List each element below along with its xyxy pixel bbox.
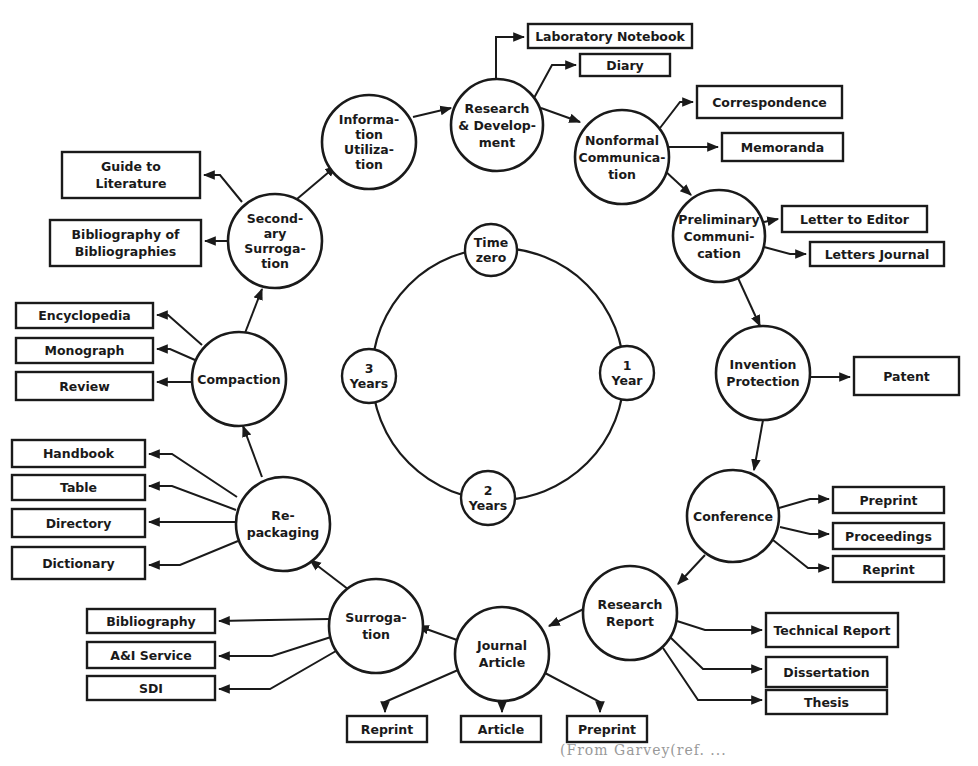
time-marker-one-year: 1Year — [600, 346, 654, 400]
output-dictionary: Dictionary — [12, 541, 238, 579]
time-marker-label: Years — [468, 498, 507, 513]
time-marker-label: 1 — [623, 358, 632, 373]
stage-label: Preliminary — [678, 212, 759, 227]
output-label: Encyclopedia — [38, 308, 130, 323]
stage-label: ment — [479, 135, 515, 150]
output-label: Preprint — [578, 722, 636, 737]
output-connector-arrow — [677, 621, 762, 630]
stage-label: Compaction — [197, 372, 280, 387]
output-label: Proceedings — [845, 529, 932, 544]
output-connector-arrow — [660, 102, 693, 128]
stage-label: Surroga- — [345, 610, 406, 625]
output-technical-report: Technical Report — [677, 613, 898, 647]
output-bibliography: Bibliography — [87, 609, 330, 633]
output-directory: Directory — [12, 509, 236, 537]
time-ring: Timezero1Year2Years3Years — [342, 224, 654, 525]
stage-label: Invention — [730, 357, 797, 372]
output-connector-arrow — [779, 499, 829, 508]
output-label: Literature — [96, 176, 167, 191]
output-label: Review — [59, 379, 110, 394]
time-cycle-ring — [372, 248, 624, 500]
output-preprint-conference: Preprint — [779, 487, 944, 513]
stage-label: Informa- — [339, 112, 399, 127]
output-connector-arrow — [764, 247, 806, 254]
output-reprint-journal: Reprint — [347, 670, 458, 742]
stage-label: & Develop- — [458, 118, 536, 133]
output-label: Memoranda — [741, 140, 824, 155]
time-marker-three-years: 3Years — [342, 349, 396, 403]
output-memoranda: Memoranda — [668, 133, 843, 161]
flow-arrow-preliminary-communication-to-invention-protection — [738, 278, 760, 326]
output-connector-arrow — [157, 349, 195, 360]
stage-repackaging: Re-packaging — [236, 477, 330, 571]
stage-label: Conference — [693, 509, 773, 524]
flow-arrow-conference-to-research-report — [678, 555, 705, 584]
stage-circle — [329, 579, 423, 673]
output-connector-arrow — [496, 37, 524, 79]
time-marker-label: 2 — [484, 483, 493, 498]
output-label: Bibliography of — [72, 227, 180, 242]
stage-circle — [236, 477, 330, 571]
stage-label: Second- — [247, 211, 304, 226]
output-label: Patent — [883, 369, 930, 384]
output-label: Diary — [606, 58, 643, 73]
stage-label: tion — [362, 627, 390, 642]
output-label: Laboratory Notebook — [535, 29, 685, 44]
output-label: Dictionary — [42, 556, 115, 571]
stage-label: Journal — [476, 638, 527, 653]
stage-information-utilization: Informa-tionUtiliza-tion — [322, 95, 416, 189]
time-marker-label: Time — [474, 235, 508, 250]
output-label: Letters Journal — [825, 247, 930, 262]
time-marker-label: Years — [349, 376, 388, 391]
output-connector-arrow — [545, 673, 600, 712]
stage-label: tion — [608, 167, 636, 182]
output-connector-arrow — [663, 648, 762, 700]
output-label: Reprint — [862, 562, 914, 577]
output-diary: Diary — [534, 54, 670, 98]
stage-label: Utiliza- — [344, 142, 394, 157]
output-connector-arrow — [780, 527, 829, 534]
stage-journal-article: JournalArticle — [455, 607, 549, 701]
stage-label: Research — [598, 597, 663, 612]
output-correspondence: Correspondence — [660, 86, 842, 128]
output-review: Review — [16, 372, 192, 400]
output-label: Correspondence — [712, 95, 827, 110]
stage-nonformal-communication: NonformalCommunica-tion — [575, 110, 669, 204]
flow-arrow-repackaging-to-compaction — [243, 426, 262, 477]
stage-label: Communica- — [579, 150, 666, 165]
flow-arrow-invention-protection-to-conference — [754, 420, 763, 470]
output-proceedings: Proceedings — [780, 523, 944, 549]
stage-label: ary — [264, 226, 287, 241]
stage-circle — [455, 607, 549, 701]
stage-label: tion — [355, 157, 383, 172]
time-marker-label: 3 — [365, 361, 374, 376]
flow-edges — [243, 108, 763, 640]
time-marker-label: zero — [476, 250, 507, 265]
output-monograph: Monograph — [16, 338, 195, 363]
output-label: Table — [60, 480, 97, 495]
flow-arrow-information-utilization-to-research-development — [413, 108, 451, 117]
flow-arrow-secondary-surrogation-to-information-utilization — [297, 166, 336, 199]
stage-label: Protection — [726, 374, 800, 389]
output-preprint-journal: Preprint — [545, 673, 647, 742]
output-label: Monograph — [45, 343, 125, 358]
flow-arrow-nonformal-communication-to-preliminary-communication — [664, 170, 691, 195]
output-connector-arrow — [204, 175, 242, 202]
figure-caption: (From Garvey(ref. ... — [560, 742, 727, 758]
stage-surrogation: Surroga-tion — [329, 579, 423, 673]
output-table: Table — [12, 475, 236, 510]
time-marker-label: Year — [611, 373, 644, 388]
output-label: Handbook — [43, 446, 115, 461]
output-label: Article — [478, 722, 524, 737]
stage-label: tion — [355, 127, 383, 142]
stage-label: packaging — [247, 525, 320, 540]
time-marker-time-zero: Timezero — [465, 224, 517, 276]
output-label: Reprint — [361, 722, 413, 737]
time-marker-two-years: 2Years — [461, 471, 515, 525]
output-article: Article — [461, 701, 541, 742]
output-connector-arrow — [670, 637, 762, 669]
output-guide-to-literature: Guide toLiterature — [62, 152, 242, 202]
output-label: A&I Service — [110, 648, 192, 663]
output-connector-arrow — [773, 540, 829, 568]
output-patent: Patent — [810, 357, 959, 395]
